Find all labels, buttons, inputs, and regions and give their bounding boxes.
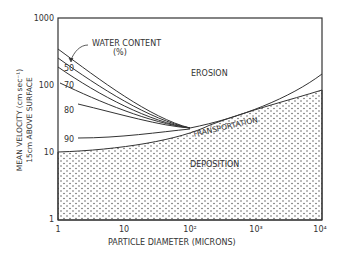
y-axis-label: MEAN VELOCITY (cm sec⁻¹) [15, 69, 24, 171]
svg-text:10⁴: 10⁴ [313, 225, 326, 234]
label-70: 70 [64, 81, 74, 90]
x-axis-label: PARTICLE DIAMETER (MICRONS) [108, 238, 236, 247]
svg-text:10²: 10² [183, 225, 196, 234]
svg-text:1000: 1000 [34, 14, 54, 23]
label-90: 90 [64, 135, 74, 144]
legend-title: WATER CONTENT [92, 39, 161, 48]
legend-arrow [71, 45, 88, 60]
label-80: 80 [64, 106, 74, 115]
svg-text:10³: 10³ [249, 225, 262, 234]
svg-text:10: 10 [44, 148, 54, 157]
y-axis: 1000 100 10 1 [34, 14, 54, 224]
svg-text:10: 10 [119, 225, 129, 234]
svg-text:100: 100 [39, 81, 54, 90]
y-axis-label-2: 15cm ABOVE SURFACE [25, 77, 34, 163]
svg-text:1: 1 [55, 225, 60, 234]
hjulstrom-chart: WATER CONTENT (%) 50 70 80 90 EROSION DE… [0, 0, 340, 258]
water-content-curves [58, 49, 190, 138]
x-axis: 1 10 10² 10³ 10⁴ [55, 225, 326, 234]
erosion-label: EROSION [191, 69, 228, 78]
label-50: 50 [64, 64, 74, 73]
svg-text:1: 1 [49, 215, 54, 224]
legend-unit: (%) [113, 48, 127, 57]
deposition-area [58, 90, 322, 220]
deposition-label: DEPOSITION [190, 160, 239, 169]
